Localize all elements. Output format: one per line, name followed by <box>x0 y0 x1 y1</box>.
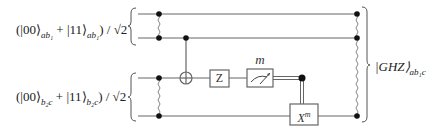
classical-control-dot <box>299 75 306 82</box>
entangle-dot <box>156 75 162 81</box>
z-gate-label: Z <box>210 70 229 87</box>
entanglement-wavy-line-b2c <box>158 78 160 118</box>
ghz-dot <box>354 11 360 17</box>
cnot-control-dot <box>183 35 189 41</box>
left-brace-top <box>128 8 136 45</box>
left-brace-bottom <box>128 73 136 121</box>
entangle-dot <box>156 35 162 41</box>
circuit-diagram: Z m Xm <box>0 0 436 133</box>
right-brace <box>362 7 370 122</box>
x-gate-label: Xm <box>290 104 318 125</box>
ghz-wavy-line <box>356 14 358 118</box>
ghz-dot <box>354 35 360 41</box>
entanglement-wavy-line-ab1 <box>158 14 160 38</box>
ghz-dot <box>354 113 360 119</box>
measure-label: m <box>252 52 268 68</box>
x-exponent: m <box>305 110 311 119</box>
measurement-gate <box>247 69 273 87</box>
x-base: X <box>297 111 304 125</box>
entangle-dot <box>156 11 162 17</box>
entangle-dot <box>156 113 162 119</box>
